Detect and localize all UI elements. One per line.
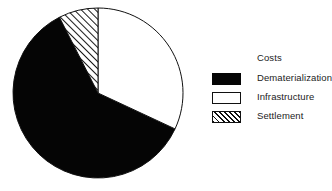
pie-chart-svg	[0, 0, 200, 191]
legend-label-settlement: Settlement	[257, 110, 303, 121]
legend-swatch-infrastructure	[212, 92, 241, 104]
pie-chart-plot-area	[0, 0, 200, 191]
legend-label-dematerialization: Dematerialization	[257, 72, 332, 83]
legend-swatch-settlement	[212, 111, 241, 123]
legend-item-dematerialization: Dematerialization	[210, 73, 331, 87]
legend-title: Costs	[257, 52, 282, 63]
legend-swatch-dematerialization	[212, 73, 241, 85]
legend-item-infrastructure: Infrastructure	[210, 92, 331, 106]
legend-item-settlement: Settlement	[210, 111, 331, 125]
chart-legend: Costs Dematerialization Infrastructure S…	[210, 52, 331, 130]
legend-label-infrastructure: Infrastructure	[257, 91, 314, 102]
